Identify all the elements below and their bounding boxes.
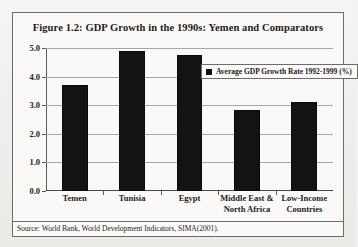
figure-title: Figure 1.2: GDP Growth in the 1990s: Yem…	[13, 22, 343, 33]
y-tick-label: 3.0	[29, 100, 40, 110]
category-label: Tunisia	[103, 193, 160, 214]
category-label: Egypt	[161, 193, 218, 214]
category-label: Middle East & North Africa	[218, 193, 275, 214]
bar-middle-east-north-africa	[234, 110, 260, 192]
source-note: Source: World Bank, World Development In…	[17, 224, 219, 233]
y-tick-mark	[42, 191, 46, 192]
y-tick-label: 1.0	[29, 157, 40, 167]
category-label: Temen	[46, 193, 103, 214]
source-band: Source: World Bank, World Development In…	[12, 222, 344, 237]
y-tick-label: 5.0	[29, 43, 40, 53]
bar-egypt	[177, 55, 203, 191]
bar-low-income-countries	[291, 102, 317, 191]
category-label: Low-Income Countries	[276, 193, 333, 214]
y-tick-label: 0.0	[29, 186, 40, 196]
bar-slot	[46, 48, 103, 191]
bar-temen	[62, 85, 88, 191]
legend-swatch-icon	[206, 69, 212, 75]
y-tick-label: 2.0	[29, 129, 40, 139]
figure-frame: Figure 1.2: GDP Growth in the 1990s: Yem…	[12, 12, 344, 222]
bar-tunisia	[119, 51, 145, 191]
chart-legend: Average GDP Growth Rate 1992-1999 (%)	[201, 64, 358, 79]
x-axis-category-labels: TemenTunisiaEgyptMiddle East & North Afr…	[46, 193, 333, 214]
y-tick-label: 4.0	[29, 72, 40, 82]
bar-slot	[103, 48, 160, 191]
legend-label: Average GDP Growth Rate 1992-1999 (%)	[216, 67, 352, 76]
